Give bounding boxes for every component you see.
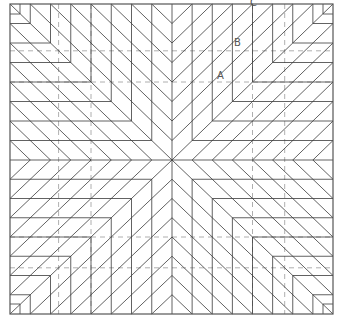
crease-pattern [0, 0, 341, 323]
label-c: C [250, 0, 257, 8]
label-a: A [217, 71, 224, 81]
label-b: B [234, 38, 241, 48]
